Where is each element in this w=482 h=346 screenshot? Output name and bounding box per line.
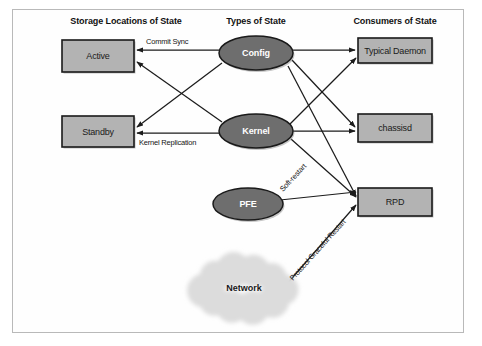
node-label: Config bbox=[242, 48, 270, 58]
edge-line bbox=[292, 60, 355, 127]
edge-label-commit-sync: Commit Sync bbox=[146, 37, 189, 46]
edge-pfe-rpd bbox=[280, 192, 356, 200]
node-pfe[interactable]: PFE bbox=[213, 188, 285, 222]
column-header-storage: Storage Locations of State bbox=[70, 16, 182, 26]
edge-config-chassisd bbox=[292, 60, 355, 127]
edge-line bbox=[137, 62, 222, 122]
nodes-layer: ActiveStandbyConfigKernelPFENetworkTypic… bbox=[62, 36, 434, 325]
edge-config-standby bbox=[137, 63, 222, 127]
node-active[interactable]: Active bbox=[62, 40, 136, 74]
node-standby[interactable]: Standby bbox=[62, 116, 136, 149]
column-header-types: Types of State bbox=[226, 16, 286, 26]
edge-line bbox=[137, 63, 222, 127]
column-headers-layer: Storage Locations of StateTypes of State… bbox=[70, 16, 436, 26]
node-daemon[interactable]: Typical Daemon bbox=[358, 38, 434, 65]
edge-label-soft-restart: Soft-restart bbox=[278, 161, 309, 193]
node-label: chassisd bbox=[378, 123, 412, 133]
node-rpd[interactable]: RPD bbox=[358, 188, 434, 218]
node-network[interactable]: Network bbox=[187, 252, 298, 325]
node-label: Active bbox=[86, 51, 110, 61]
edge-labels-layer: Commit SyncKernel ReplicationSoft-restar… bbox=[139, 37, 348, 282]
edge-kernel-active bbox=[137, 62, 222, 122]
node-chassisd[interactable]: chassisd bbox=[358, 114, 434, 144]
node-kernel[interactable]: Kernel bbox=[219, 114, 295, 150]
node-label: Standby bbox=[82, 127, 114, 137]
edges-layer bbox=[137, 50, 356, 286]
diagram-canvas: ActiveStandbyConfigKernelPFENetworkTypic… bbox=[0, 0, 482, 346]
diagram-figure: ActiveStandbyConfigKernelPFENetworkTypic… bbox=[0, 0, 482, 346]
node-config[interactable]: Config bbox=[219, 36, 295, 72]
node-label: Kernel bbox=[242, 126, 269, 136]
node-label: RPD bbox=[386, 197, 405, 207]
node-label: Typical Daemon bbox=[364, 46, 426, 56]
edge-label-kernel-replication: Kernel Replication bbox=[139, 138, 196, 147]
column-header-consumers: Consumers of State bbox=[353, 16, 436, 26]
node-label: Network bbox=[226, 283, 263, 293]
edge-line bbox=[280, 192, 356, 200]
node-label: PFE bbox=[239, 199, 256, 209]
edge-label-protocol-graceful-restart: Protocol Graceful Restart bbox=[288, 217, 348, 283]
